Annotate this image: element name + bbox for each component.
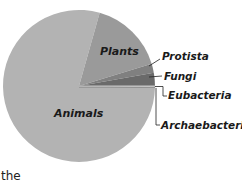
- label-fungi: Fungi: [164, 70, 197, 82]
- label-protista: Protista: [162, 50, 209, 62]
- caption-text: the: [1, 169, 21, 183]
- label-plants: Plants: [100, 45, 139, 58]
- label-animals: Animals: [53, 107, 104, 120]
- pie-chart: Plants Animals Protista Fungi Eubacteria…: [0, 0, 242, 170]
- label-eubacteria: Eubacteria: [168, 89, 231, 101]
- label-archaebacteria: Archaebacteria: [160, 119, 242, 131]
